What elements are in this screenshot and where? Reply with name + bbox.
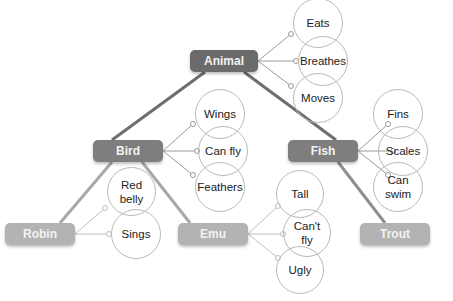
node-bird: Bird [93,140,163,162]
property-can-swim: Can swim [373,162,423,212]
node-fish: Fish [288,140,358,162]
node-robin: Robin [5,223,75,245]
property-ugly: Ugly [276,246,324,294]
node-trout: Trout [360,223,430,245]
property-sings: Sings [111,209,161,259]
node-emu: Emu [178,223,248,245]
node-animal: Animal [190,50,258,72]
property-moves: Moves [293,73,343,123]
property-feathers: Feathers [195,162,245,212]
